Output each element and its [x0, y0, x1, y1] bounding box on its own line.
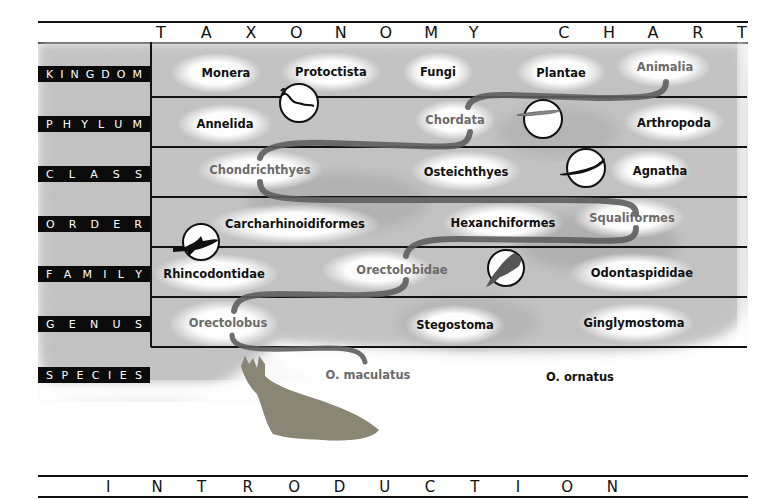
- rank-label-phylum: PHYLUM: [38, 116, 150, 132]
- title-letter: Y: [469, 23, 470, 42]
- footer-letter: I: [516, 478, 517, 496]
- rank-letter: S: [113, 168, 120, 181]
- rank-letter: M: [132, 118, 142, 131]
- introduction-title[interactable]: I N T R O D U C T I O N: [106, 477, 608, 496]
- rank-letter: O: [46, 218, 55, 231]
- taxon-orectolobidae: Orectolobidae: [356, 263, 447, 277]
- title-letter: T: [156, 23, 157, 42]
- taxon-plantae: Plantae: [536, 66, 585, 80]
- taxon-arthropoda: Arthropoda: [637, 116, 711, 130]
- taxon-annelida: Annelida: [197, 117, 254, 131]
- footer-letter: O: [288, 478, 289, 496]
- rank-letter: U: [113, 318, 121, 331]
- footer-letter: D: [334, 478, 335, 496]
- nurse-shark-icon: [482, 247, 528, 291]
- rank-letter: C: [46, 168, 54, 181]
- footer-letter: I: [106, 478, 107, 496]
- rank-letter: K: [46, 68, 53, 81]
- rank-letter: A: [64, 268, 72, 281]
- footer-letter: U: [379, 478, 380, 496]
- rank-letter: M: [132, 68, 142, 81]
- title-letter: O: [379, 23, 380, 42]
- rank-letter: L: [69, 168, 75, 181]
- rank-label-class: CLASS: [38, 166, 150, 182]
- taxon-animalia: Animalia: [637, 60, 693, 74]
- shark-icon: [171, 222, 221, 266]
- footer-letter: N: [152, 478, 153, 496]
- rank-label-species: SPECIES: [38, 367, 150, 383]
- introduction-band[interactable]: I N T R O D U C T I O N: [38, 475, 748, 498]
- rank-letter: L: [118, 268, 124, 281]
- taxon-stegostoma: Stegostoma: [416, 318, 494, 332]
- lancelet-icon: [515, 98, 565, 140]
- rank-letter: N: [71, 68, 79, 81]
- rank-letter: H: [63, 118, 71, 131]
- rank-letter: U: [114, 118, 122, 131]
- taxon-rhincodontidae: Rhincodontidae: [163, 267, 264, 281]
- title-band: T A X O N O M Y C H A R T: [38, 21, 748, 44]
- title-letter: X: [245, 23, 246, 42]
- title-letter: M: [424, 23, 425, 42]
- rank-letter: S: [135, 369, 142, 382]
- rank-letter: L: [98, 118, 104, 131]
- rank-letter: G: [46, 318, 55, 331]
- lamprey-icon: [558, 146, 608, 190]
- taxon-o-ornatus: O. ornatus: [546, 370, 614, 384]
- rank-letter: I: [103, 268, 106, 281]
- rank-label-order: ORDER: [38, 216, 150, 232]
- title-letter: A: [201, 23, 202, 42]
- taxonomy-chart: KINGDOM PHYLUM CLASS ORDER FAMILY GENUS …: [38, 42, 748, 402]
- taxon-orectolobus: Orectolobus: [189, 316, 268, 330]
- rank-letter: F: [46, 268, 52, 281]
- rank-letter: E: [120, 369, 127, 382]
- rank-letter: N: [90, 318, 98, 331]
- footer-letter: O: [561, 478, 562, 496]
- rank-label-genus: GENUS: [38, 316, 150, 332]
- rank-letter: M: [82, 268, 92, 281]
- rank-letter: O: [117, 68, 126, 81]
- rank-letter: C: [92, 369, 100, 382]
- rank-letter: S: [135, 318, 142, 331]
- rank-letter: G: [86, 68, 95, 81]
- title-letter: N: [335, 23, 336, 42]
- taxon-chordata: Chordata: [425, 113, 484, 127]
- rank-letter: I: [60, 68, 63, 81]
- rank-letter: E: [113, 218, 120, 231]
- footer-letter: C: [425, 478, 426, 496]
- chart-title: T A X O N O M Y C H A R T: [156, 23, 748, 42]
- rank-letter: Y: [135, 268, 142, 281]
- taxon-hexanchiformes: Hexanchiformes: [451, 216, 556, 230]
- rank-letter: E: [69, 318, 76, 331]
- title-letter: A: [648, 23, 649, 42]
- taxon-chondrichthyes: Chondrichthyes: [209, 163, 310, 177]
- rank-letter: E: [76, 369, 83, 382]
- taxon-osteichthyes: Osteichthyes: [424, 165, 509, 179]
- rank-letter: Y: [81, 118, 88, 131]
- footer-letter: T: [197, 478, 198, 496]
- rank-letter: R: [134, 218, 142, 231]
- taxon-ginglymostoma: Ginglymostoma: [583, 316, 684, 330]
- taxon-monera: Monera: [202, 66, 251, 80]
- title-letter: H: [603, 23, 604, 42]
- rank-letter: I: [108, 369, 111, 382]
- taxon-squaliformes: Squaliformes: [589, 211, 675, 225]
- taxon-agnatha: Agnatha: [633, 164, 688, 178]
- rank-letter: S: [135, 168, 142, 181]
- rank-label-family: FAMILY: [38, 266, 150, 282]
- rank-letter: A: [90, 168, 98, 181]
- footer-letter: T: [470, 478, 471, 496]
- taxon-odontaspididae: Odontaspididae: [591, 266, 693, 280]
- wobbegong-illustration: [233, 354, 383, 444]
- rank-letter: P: [61, 369, 68, 382]
- rank-letter: D: [101, 68, 109, 81]
- taxon-fungi: Fungi: [420, 65, 456, 79]
- worm-icon: [278, 82, 320, 124]
- rank-letter: P: [46, 118, 53, 131]
- footer-letter: N: [607, 478, 608, 496]
- title-letter: C: [558, 23, 559, 42]
- rank-letter: R: [69, 218, 77, 231]
- rank-letter: S: [46, 369, 53, 382]
- taxon-protoctista: Protoctista: [295, 65, 367, 79]
- rank-letter: D: [91, 218, 99, 231]
- title-letter: T: [737, 23, 738, 42]
